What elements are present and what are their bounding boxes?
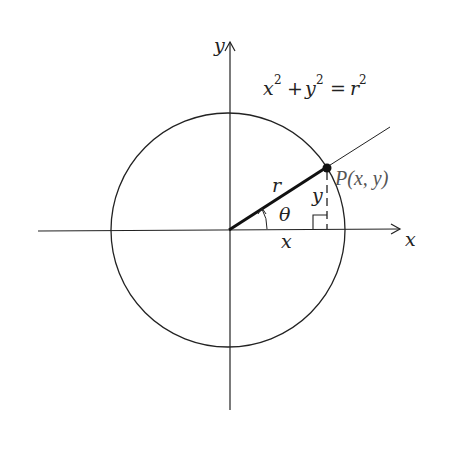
leg-y-label: y	[311, 184, 323, 206]
x-axis	[38, 229, 400, 231]
svg-text:x: x	[263, 77, 274, 99]
svg-text:2: 2	[274, 73, 282, 87]
circle-diagram: y x x 2 + y 2 = r 2 r θ x y P(x, y)	[0, 0, 454, 455]
terminal-ray	[327, 127, 390, 167]
point-p-label: P(x, y)	[334, 167, 389, 190]
circle-equation: x 2 + y 2 = r 2	[263, 73, 367, 99]
right-angle-marker	[313, 215, 327, 229]
radius-label: r	[272, 174, 283, 196]
svg-text:2: 2	[316, 73, 324, 87]
point-p-dot	[323, 164, 332, 173]
x-axis-label: x	[405, 228, 416, 250]
theta-label: θ	[279, 203, 291, 225]
y-axis-label: y	[213, 34, 225, 56]
svg-text:y: y	[304, 77, 316, 99]
svg-text:+: +	[287, 77, 303, 99]
svg-text:2: 2	[359, 73, 367, 87]
leg-x-label: x	[281, 230, 292, 252]
svg-text:=: =	[330, 77, 346, 99]
